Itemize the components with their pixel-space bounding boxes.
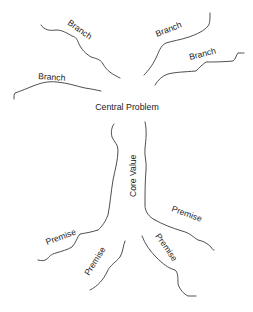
branch-line-left: [14, 82, 101, 99]
branch-label-upper-right: Branch: [154, 19, 183, 39]
trunk-line-right: [145, 122, 155, 220]
branch-label-right: Branch: [188, 46, 217, 62]
core-value-label: Core Value: [128, 154, 138, 197]
root-label-lower-left: Premise: [44, 227, 77, 247]
root-label-lower-right: Premise: [170, 203, 203, 223]
root-label-lower-left-inner: Premise: [82, 245, 107, 277]
trunk-line-left: [98, 124, 118, 230]
problem-tree-diagram: Branch Branch Branch Branch Central Prob…: [0, 0, 253, 312]
branch-label-left: Branch: [38, 71, 66, 83]
branch-label-upper-left: Branch: [66, 17, 94, 41]
central-problem-label: Central Problem: [95, 102, 159, 112]
